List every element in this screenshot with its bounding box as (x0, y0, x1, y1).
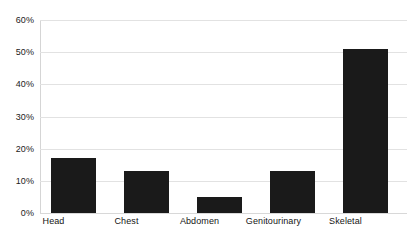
gridline-60 (40, 20, 407, 21)
bar-chart: 60% 50% 40% 30% 20% 10% 0% Head Chest Ab… (0, 0, 412, 236)
bar-skeletal[interactable] (343, 49, 388, 213)
x-tick-label-chest: Chest (94, 216, 159, 226)
y-tick-label-10: 10% (0, 176, 34, 186)
x-tick-label-genitourinary: Genitourinary (234, 216, 313, 226)
x-tick-label-abdomen: Abdomen (167, 216, 232, 226)
bar-chest[interactable] (124, 171, 169, 213)
y-tick-label-60: 60% (0, 15, 34, 25)
x-tick-label-skeletal: Skeletal (313, 216, 378, 226)
x-tick-label-head: Head (21, 216, 86, 226)
bar-head[interactable] (51, 158, 96, 213)
gridline-0-baseline (40, 213, 407, 214)
y-tick-label-40: 40% (0, 79, 34, 89)
bar-abdomen[interactable] (197, 197, 242, 213)
y-tick-label-30: 30% (0, 112, 34, 122)
bar-genitourinary[interactable] (270, 171, 315, 213)
y-tick-label-50: 50% (0, 47, 34, 57)
plot-area (40, 20, 407, 213)
y-tick-label-20: 20% (0, 144, 34, 154)
